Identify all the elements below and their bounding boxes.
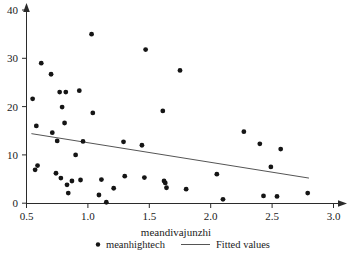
x-axis-arrow-icon bbox=[338, 200, 347, 207]
scatter-point bbox=[268, 165, 273, 170]
scatter-chart: 40 30 20 10 0 0.5 1.0 1.5 bbox=[0, 0, 352, 257]
scatter-point bbox=[121, 139, 126, 144]
scatter-point bbox=[62, 121, 67, 126]
scatter-point bbox=[221, 197, 226, 202]
scatter-points-group bbox=[30, 32, 310, 205]
scatter-point bbox=[257, 141, 262, 146]
x-tick-label-2-5: 2.5 bbox=[265, 210, 279, 222]
scatter-point bbox=[111, 186, 116, 191]
y-axis-ticks bbox=[22, 10, 27, 203]
scatter-point bbox=[35, 163, 40, 168]
x-axis-ticks bbox=[27, 204, 334, 209]
scatter-point bbox=[99, 177, 104, 182]
legend-marker-icon bbox=[96, 242, 100, 246]
legend-label-fitted-values: Fitted values bbox=[216, 239, 270, 250]
scatter-point bbox=[241, 129, 246, 134]
fitted-values-line bbox=[31, 134, 309, 178]
scatter-point bbox=[214, 172, 219, 177]
x-axis-tick-labels: 0.5 1.0 1.5 2.0 2.5 3.0 bbox=[20, 210, 341, 222]
plot-canvas: 40 30 20 10 0 0.5 1.0 1.5 bbox=[0, 0, 352, 257]
y-axis-tick-labels: 40 30 20 10 0 bbox=[7, 4, 19, 209]
scatter-point bbox=[33, 167, 38, 172]
scatter-point bbox=[305, 191, 310, 196]
scatter-point bbox=[97, 193, 102, 198]
y-tick-label-30: 30 bbox=[7, 52, 19, 64]
scatter-point bbox=[81, 139, 86, 144]
scatter-point bbox=[30, 96, 35, 101]
scatter-point bbox=[49, 72, 54, 77]
x-tick-label-1-5: 1.5 bbox=[142, 210, 156, 222]
legend: meanhightech Fitted values bbox=[96, 239, 270, 250]
scatter-point bbox=[178, 68, 183, 73]
scatter-point bbox=[122, 174, 127, 179]
scatter-point bbox=[89, 32, 94, 37]
y-tick-label-20: 20 bbox=[7, 101, 19, 113]
scatter-point bbox=[63, 90, 68, 95]
scatter-point bbox=[60, 105, 65, 110]
scatter-point bbox=[163, 181, 168, 186]
scatter-point bbox=[143, 47, 148, 52]
scatter-point bbox=[78, 178, 83, 183]
scatter-point bbox=[140, 143, 145, 148]
scatter-point bbox=[39, 61, 44, 66]
scatter-point bbox=[90, 110, 95, 115]
scatter-point bbox=[142, 175, 147, 180]
scatter-point bbox=[278, 147, 283, 152]
x-tick-label-0-5: 0.5 bbox=[20, 210, 34, 222]
scatter-point bbox=[55, 138, 60, 143]
y-tick-label-0: 0 bbox=[13, 197, 19, 209]
y-tick-label-10: 10 bbox=[7, 149, 19, 161]
scatter-point bbox=[104, 200, 109, 205]
scatter-point bbox=[275, 194, 280, 199]
scatter-point bbox=[34, 124, 39, 129]
scatter-point bbox=[261, 194, 266, 199]
scatter-point bbox=[184, 187, 189, 192]
scatter-point bbox=[58, 176, 63, 181]
scatter-point bbox=[73, 153, 78, 158]
scatter-point bbox=[66, 191, 71, 196]
x-tick-label-3-0: 3.0 bbox=[327, 210, 341, 222]
scatter-point bbox=[54, 171, 59, 176]
x-tick-label-1-0: 1.0 bbox=[81, 210, 95, 222]
y-axis: 40 30 20 10 0 bbox=[7, 3, 30, 209]
scatter-point bbox=[57, 90, 62, 95]
scatter-point bbox=[65, 182, 70, 187]
x-axis: 0.5 1.0 1.5 2.0 2.5 3.0 bbox=[20, 200, 347, 222]
x-tick-label-2-0: 2.0 bbox=[204, 210, 218, 222]
scatter-point bbox=[160, 109, 165, 114]
legend-label-meanhightech: meanhightech bbox=[106, 239, 166, 250]
x-axis-title: meandivajunzhi bbox=[141, 226, 211, 238]
y-axis-arrow-icon bbox=[23, 3, 30, 12]
scatter-point bbox=[70, 179, 75, 184]
scatter-point bbox=[50, 130, 55, 135]
y-tick-label-40: 40 bbox=[7, 4, 19, 16]
scatter-point bbox=[77, 88, 82, 93]
scatter-point bbox=[164, 185, 169, 190]
